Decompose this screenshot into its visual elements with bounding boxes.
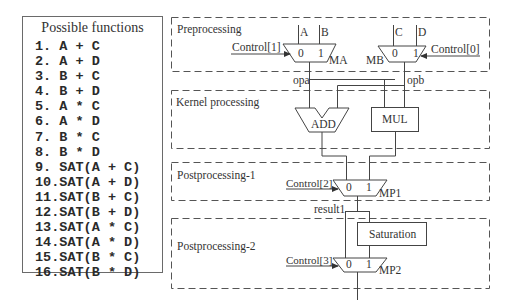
control0-label: Control[0]	[431, 43, 480, 55]
stage-label-post2: Postprocessing-2	[177, 240, 256, 253]
mb-in0: 0	[392, 47, 398, 59]
control1-label: Control[1]	[232, 41, 281, 53]
input-d-label: D	[418, 26, 426, 38]
ma-name: MA	[329, 54, 348, 66]
mp1-in1: 1	[366, 181, 372, 193]
mp2-in0: 0	[346, 258, 352, 270]
stage-label-kernel: Kernel processing	[176, 96, 260, 109]
result1-label: result1	[314, 203, 346, 215]
add-label: ADD	[311, 118, 336, 130]
mp1-in0: 0	[346, 181, 352, 193]
input-b-label: B	[321, 26, 329, 38]
mp2-in1: 1	[366, 258, 372, 270]
control3-label: Control[3]	[286, 254, 332, 266]
opb-label: opb	[407, 74, 425, 87]
mux-mb	[378, 46, 426, 62]
mul-label: MUL	[382, 113, 408, 125]
opa-label: opa	[293, 74, 310, 87]
input-a-label: A	[300, 26, 309, 38]
mb-in1: 1	[413, 47, 419, 59]
saturation-label: Saturation	[369, 228, 417, 240]
control2-label: Control[2]	[286, 177, 332, 189]
stage-label-post1: Postprocessing-1	[177, 169, 256, 182]
ma-in1: 1	[318, 47, 324, 59]
datapath-diagram: Preprocessing Kernel processing Postproc…	[0, 0, 507, 305]
mb-name: MB	[366, 54, 384, 66]
mp1-name: MP1	[379, 187, 402, 199]
mp2-name: MP2	[379, 264, 402, 276]
stage-label-preprocessing: Preprocessing	[177, 23, 242, 36]
input-c-label: C	[395, 26, 403, 38]
ma-in0: 0	[298, 47, 304, 59]
